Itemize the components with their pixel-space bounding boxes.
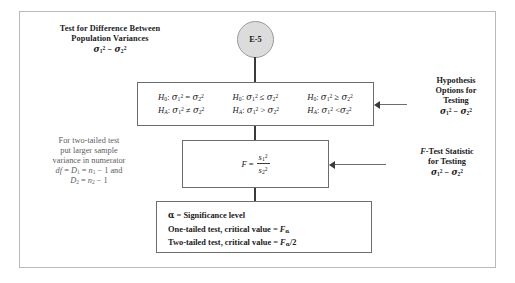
hypothesis-grid: H0: σ12 = σ22 HA: σ12 ≠ σ22 H0: σ12 ≤ σ2… (138, 83, 373, 125)
hypothesis-null-3: H0: σ12 ≥ σ22 (307, 91, 353, 104)
title-formula: σ12 − σ22 (24, 44, 196, 55)
flow-node-e5: E-5 (237, 21, 274, 58)
fstat-note-line-2: for Testing (384, 157, 510, 167)
fstat-note-formula: σ12 − σ22 (384, 167, 510, 178)
hypothesis-option-3: H0: σ12 ≥ σ22 HA: σ12 <σ22 (307, 91, 353, 118)
f-statistic-box: F = s12 s22 (182, 140, 329, 188)
hypothesis-alt-1: HA: σ12 ≠ σ22 (158, 104, 204, 117)
hypothesis-note-line-2: Options for (404, 86, 508, 96)
hypothesis-alt-3: HA: σ12 <σ22 (307, 104, 353, 117)
hypothesis-annotation: Hypothesis Options for Testing σ12 − σ22 (404, 76, 508, 117)
hypothesis-option-2: H0: σ12 ≤ σ22 HA: σ12 > σ22 (233, 91, 279, 118)
hypothesis-options-box: H0: σ12 = σ22 HA: σ12 ≠ σ22 H0: σ12 ≤ σ2… (137, 82, 374, 126)
left-note-formula-1: df = D1 = n1 − 1 and (14, 166, 164, 176)
left-note-formula-2: D2 = n2 − 1 (14, 176, 164, 186)
alpha-line-1: α = Significance level (168, 209, 365, 223)
hypothesis-option-1: H0: σ12 = σ22 HA: σ12 ≠ σ22 (158, 91, 204, 118)
fstat-note-line-1: F-Test Statistic (384, 147, 510, 157)
f-statistic-annotation: F-Test Statistic for Testing σ12 − σ22 (384, 147, 510, 178)
title-line-1: Test for Difference Between (24, 24, 196, 34)
hypothesis-alt-2: HA: σ12 > σ22 (233, 104, 279, 117)
left-note-line-2: put larger sample (14, 146, 164, 156)
title-line-2: Population Variances (24, 34, 196, 44)
hypothesis-null-1: H0: σ12 = σ22 (158, 91, 204, 104)
diagram-canvas: Test for Difference Between Population V… (0, 0, 515, 283)
f-statistic-formula: F = s12 s22 (183, 141, 328, 187)
hypothesis-note-line-1: Hypothesis (404, 76, 508, 86)
alpha-line-3: Two-tailed test, critical value = Fα/2 (168, 236, 365, 250)
significance-level-box: α = Significance level One-tailed test, … (156, 201, 372, 253)
hypothesis-null-2: H0: σ12 ≤ σ22 (233, 91, 279, 104)
left-note-line-3: variance in numerator (14, 156, 164, 166)
left-annotation: For two-tailed test put larger sample va… (14, 136, 164, 187)
connector-fstat-to-alpha (254, 187, 256, 202)
f-statistic-denominator: s22 (257, 163, 270, 175)
f-statistic-numerator: s12 (257, 152, 270, 163)
flow-node-e5-label: E-5 (249, 35, 262, 44)
alpha-line-2: One-tailed test, critical value = Fα (168, 223, 365, 237)
left-note-line-1: For two-tailed test (14, 136, 164, 146)
significance-level-text: α = Significance level One-tailed test, … (168, 209, 365, 250)
arrow-to-f-statistic-box (329, 160, 386, 169)
f-statistic-fraction: s12 s22 (257, 152, 270, 175)
diagram-title: Test for Difference Between Population V… (24, 24, 196, 55)
connector-hypothesis-to-fstat (254, 125, 256, 141)
connector-node-to-hypothesis (254, 57, 256, 83)
hypothesis-note-line-3: Testing (404, 96, 508, 106)
hypothesis-note-formula: σ12 − σ22 (404, 106, 508, 117)
arrow-to-hypothesis-box (374, 100, 407, 109)
